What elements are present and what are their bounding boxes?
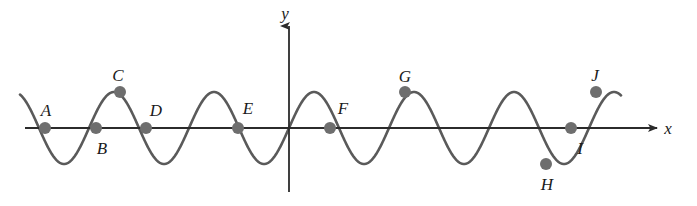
point-label-b: B xyxy=(97,140,107,157)
x-axis-label: x xyxy=(664,120,672,137)
point-g xyxy=(399,86,411,98)
point-label-e: E xyxy=(243,100,253,117)
point-d xyxy=(140,122,152,134)
point-f xyxy=(324,122,336,134)
point-c xyxy=(114,86,126,98)
graph-canvas xyxy=(0,0,697,206)
point-label-a: A xyxy=(41,102,51,119)
y-axis-label: y xyxy=(281,5,289,22)
point-label-c: C xyxy=(112,67,123,84)
point-label-h: H xyxy=(541,176,553,193)
point-i xyxy=(565,122,577,134)
point-label-f: F xyxy=(338,100,348,117)
point-j xyxy=(590,86,602,98)
point-label-d: D xyxy=(150,102,162,119)
point-label-i: I xyxy=(577,140,583,157)
point-label-g: G xyxy=(399,68,411,85)
point-b xyxy=(90,122,102,134)
point-label-j: J xyxy=(591,67,599,84)
point-h xyxy=(540,158,552,170)
point-a xyxy=(39,122,51,134)
point-e xyxy=(232,122,244,134)
sinusoid-graph-figure: ABCDEFGHIJ x y xyxy=(0,0,697,206)
